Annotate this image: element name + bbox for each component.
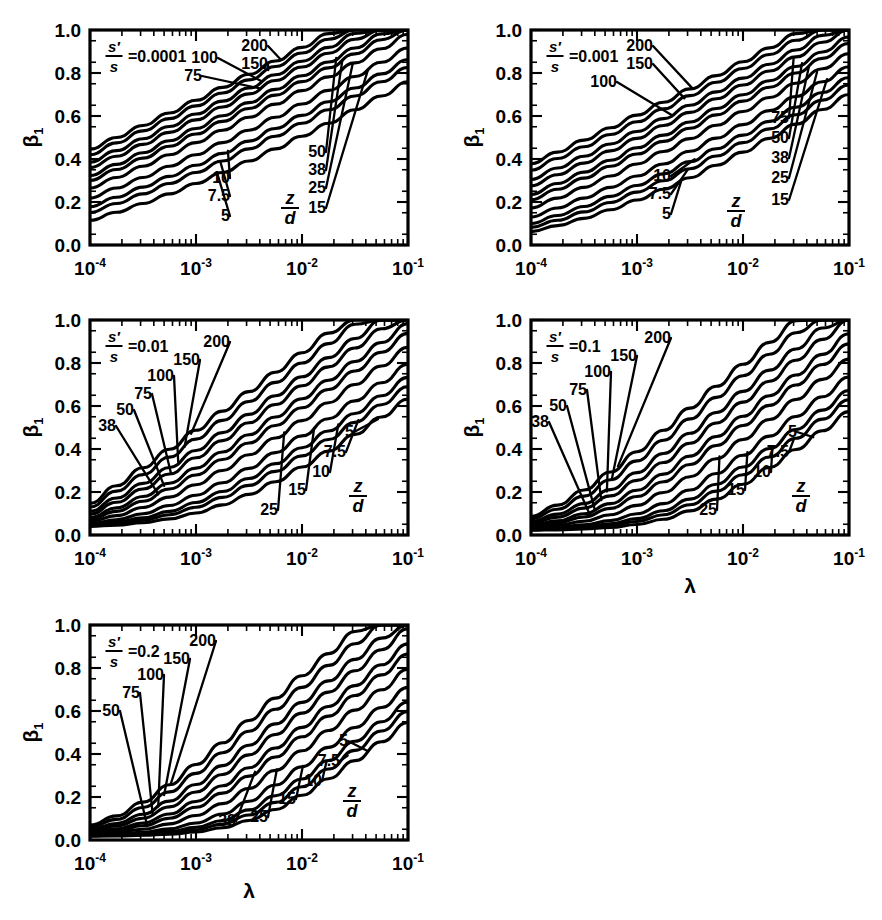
svg-text:d: d — [285, 208, 297, 228]
svg-text:=0.0001: =0.0001 — [128, 48, 186, 65]
annotation-label-10: 10 — [753, 463, 771, 480]
annotation-label-200: 200 — [644, 329, 671, 346]
svg-text:=0.1: =0.1 — [569, 338, 601, 355]
svg-text:10-4: 10-4 — [74, 851, 106, 874]
series-group-label: zd — [727, 191, 745, 231]
annotation-label-75: 75 — [184, 67, 202, 84]
svg-text:0.2: 0.2 — [55, 482, 81, 503]
svg-text:0.2: 0.2 — [55, 787, 81, 808]
svg-text:β1: β1 — [19, 127, 46, 147]
svg-text:s: s — [110, 653, 118, 670]
y-axis-label: β1 — [460, 127, 487, 147]
annotation-label-25: 25 — [260, 501, 278, 518]
svg-text:β1: β1 — [460, 417, 487, 437]
svg-text:0.2: 0.2 — [496, 482, 522, 503]
annotation-label-50: 50 — [771, 129, 789, 146]
svg-text:1.0: 1.0 — [496, 310, 522, 331]
annotation-label-7.5: 7.5 — [767, 443, 789, 460]
svg-text:0.6: 0.6 — [496, 106, 522, 127]
svg-text:10-2: 10-2 — [286, 256, 318, 279]
svg-text:0.8: 0.8 — [55, 353, 81, 374]
svg-text:10-3: 10-3 — [180, 256, 212, 279]
annotation-label-150: 150 — [610, 347, 637, 364]
svg-text:z: z — [353, 476, 363, 496]
svg-text:10-2: 10-2 — [727, 256, 759, 279]
annotation-label-25: 25 — [250, 808, 268, 825]
svg-text:10-3: 10-3 — [180, 546, 212, 569]
annotation-label-15: 15 — [288, 481, 306, 498]
family-ratio-label: s′s=0.1 — [547, 328, 601, 365]
svg-text:0.2: 0.2 — [55, 192, 81, 213]
svg-text:z: z — [347, 781, 357, 801]
svg-text:0.0: 0.0 — [55, 830, 81, 851]
annotation-label-25: 25 — [771, 169, 789, 186]
y-axis-label: β1 — [19, 127, 46, 147]
svg-text:10-2: 10-2 — [727, 546, 759, 569]
annotation-label-5: 5 — [788, 423, 797, 440]
svg-text:d: d — [731, 211, 743, 231]
annotation-label-100: 100 — [584, 363, 611, 380]
svg-text:=0.2: =0.2 — [128, 643, 160, 660]
series-group-label: zd — [343, 781, 361, 821]
svg-text:10-1: 10-1 — [833, 256, 865, 279]
annotation-label-7.5: 7.5 — [649, 185, 671, 202]
svg-text:10-3: 10-3 — [180, 851, 212, 874]
annotation-label-5: 5 — [339, 732, 348, 749]
svg-text:0.6: 0.6 — [496, 396, 522, 417]
svg-text:10-3: 10-3 — [621, 256, 653, 279]
annotation-label-75: 75 — [134, 385, 152, 402]
svg-text:s: s — [110, 58, 118, 75]
annotation-label-75: 75 — [771, 109, 789, 126]
annotation-label-150: 150 — [241, 55, 268, 72]
x-axis-label: λ — [243, 879, 255, 902]
svg-text:z: z — [731, 191, 741, 211]
multi-panel-chart-figure: 0.00.20.40.60.81.010-410-310-210-1β1s′s=… — [0, 0, 882, 920]
annotation-label-50: 50 — [549, 397, 567, 414]
svg-text:0.0: 0.0 — [55, 235, 81, 256]
annotation-label-100: 100 — [191, 49, 218, 66]
svg-text:β1: β1 — [19, 722, 46, 742]
svg-text:10-1: 10-1 — [392, 851, 424, 874]
y-axis-label: β1 — [19, 722, 46, 742]
series-group-label: zd — [349, 476, 367, 516]
svg-text:10-4: 10-4 — [515, 256, 547, 279]
annotation-label-15: 15 — [727, 481, 745, 498]
svg-text:0.0: 0.0 — [496, 525, 522, 546]
annotation-label-150: 150 — [163, 650, 190, 667]
series-group-label: zd — [792, 476, 810, 516]
x-axis-label: λ — [684, 574, 696, 597]
svg-text:10-3: 10-3 — [621, 546, 653, 569]
svg-text:0.4: 0.4 — [55, 744, 82, 765]
svg-text:z: z — [796, 476, 806, 496]
y-axis-label: β1 — [460, 417, 487, 437]
svg-text:0.8: 0.8 — [496, 353, 522, 374]
annotation-label-200: 200 — [189, 632, 216, 649]
svg-text:d: d — [796, 496, 808, 516]
svg-text:10-4: 10-4 — [515, 546, 547, 569]
annotation-label-38: 38 — [218, 812, 236, 829]
annotation-label-25: 25 — [699, 501, 717, 518]
annotation-label-15: 15 — [771, 191, 789, 208]
annotation-label-75: 75 — [122, 684, 140, 701]
family-ratio-label: s′s=0.0001 — [106, 38, 187, 75]
annotation-label-75: 75 — [569, 381, 587, 398]
annotation-label-100: 100 — [147, 367, 174, 384]
svg-text:10-1: 10-1 — [833, 546, 865, 569]
panel-1: 0.00.20.40.60.81.010-410-310-210-1β1s′s=… — [22, 18, 420, 307]
svg-text:=0.01: =0.01 — [128, 338, 169, 355]
svg-text:d: d — [353, 496, 365, 516]
annotation-label-100: 100 — [590, 73, 617, 90]
svg-text:0.4: 0.4 — [55, 149, 82, 170]
annotation-label-10: 10 — [312, 463, 330, 480]
annotation-label-38: 38 — [771, 149, 789, 166]
svg-text:10-2: 10-2 — [286, 546, 318, 569]
svg-text:z: z — [285, 188, 295, 208]
svg-text:s: s — [110, 348, 118, 365]
svg-text:0.0: 0.0 — [55, 525, 81, 546]
svg-text:s′: s′ — [108, 633, 121, 650]
annotation-label-5: 5 — [221, 207, 230, 224]
annotation-label-10: 10 — [304, 772, 322, 789]
family-ratio-label: s′s=0.01 — [106, 328, 169, 365]
svg-text:s′: s′ — [108, 328, 121, 345]
svg-text:10-4: 10-4 — [74, 546, 106, 569]
